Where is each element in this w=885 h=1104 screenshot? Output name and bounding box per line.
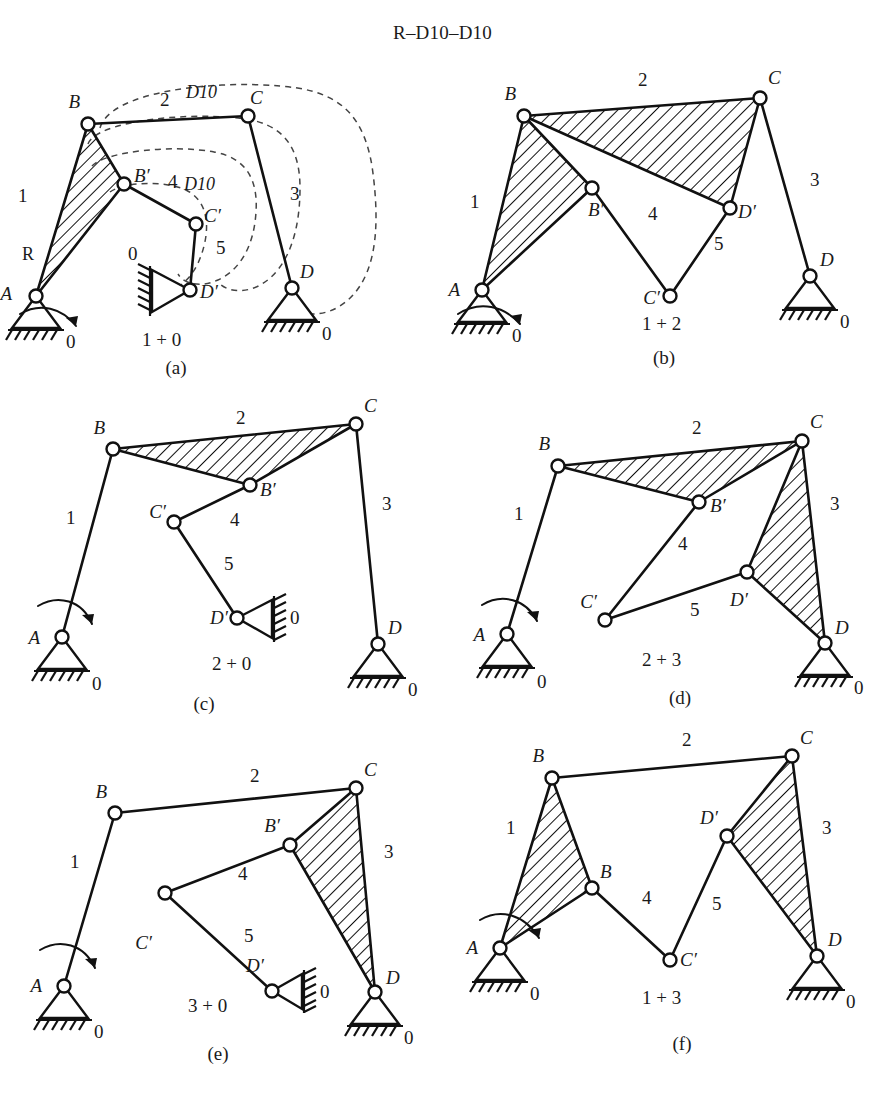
label-Cp: C′ <box>135 932 153 953</box>
label-C: C <box>800 727 813 748</box>
joint-Cp[interactable] <box>599 614 612 627</box>
label-B: B <box>95 781 107 802</box>
ground-hatch-Dp <box>304 968 316 1013</box>
joint-C[interactable] <box>350 782 363 795</box>
group-label: 1 + 3 <box>642 987 681 1008</box>
joint-Bp[interactable] <box>586 882 599 895</box>
ground-hatch-Dp <box>138 264 150 316</box>
figure-title: R–D10–D10 <box>0 22 885 44</box>
joint-Bp[interactable] <box>693 496 706 509</box>
label-C: C <box>364 759 377 780</box>
joint-D[interactable] <box>811 950 824 963</box>
link-number-3: 3 <box>382 493 392 514</box>
joint-C[interactable] <box>796 435 809 448</box>
joint-A[interactable] <box>58 980 71 993</box>
ground-hatch-A <box>470 982 528 992</box>
label-B: B <box>504 83 516 104</box>
panel-caption: (d) <box>669 687 691 709</box>
label-Cp: C′ <box>149 501 167 522</box>
panel-c: A B B′ C C′ D D′ 1 2 3 4 5 0 0 0 2 + 0 (… <box>0 398 440 728</box>
dashed-loop-inner <box>92 149 256 284</box>
link-number-3: 3 <box>830 493 840 514</box>
joint-B[interactable] <box>109 807 122 820</box>
label-Cp: C′ <box>204 205 222 226</box>
ground-hatch-D <box>345 1026 403 1036</box>
joint-A[interactable] <box>494 942 507 955</box>
link-4-BpCp <box>592 888 670 960</box>
link-number-2: 2 <box>638 69 648 90</box>
ground-hatch-D <box>795 677 853 687</box>
label-Bp: B′ <box>134 165 151 186</box>
label-A: A <box>464 937 478 958</box>
joint-Dp[interactable] <box>231 612 244 625</box>
joint-B[interactable] <box>546 772 559 785</box>
label-Cp: C′ <box>680 949 698 970</box>
ground-hatch-D <box>262 322 320 332</box>
link-2-BC <box>552 756 792 778</box>
joint-B[interactable] <box>107 443 120 456</box>
joint-B[interactable] <box>82 118 95 131</box>
joint-A[interactable] <box>56 631 69 644</box>
group-label: 1 + 2 <box>642 313 681 334</box>
joint-Cp[interactable] <box>159 887 172 900</box>
hatch-link-2 <box>113 424 356 485</box>
link-number-3: 3 <box>290 183 300 204</box>
joint-Cp[interactable] <box>190 218 203 231</box>
joint-Dp[interactable] <box>724 202 737 215</box>
joint-D[interactable] <box>804 270 817 283</box>
link-3-CD <box>248 116 292 288</box>
link-number-5: 5 <box>712 893 722 914</box>
hatch-link-1 <box>500 778 592 948</box>
joint-Bp[interactable] <box>118 178 131 191</box>
hatch-link-3 <box>727 756 817 956</box>
link-number-4: 4 <box>648 203 658 224</box>
joint-A[interactable] <box>501 628 514 641</box>
label-D: D <box>387 617 402 638</box>
joint-Dp[interactable] <box>184 284 197 297</box>
joint-Bp[interactable] <box>284 839 297 852</box>
joint-Cp[interactable] <box>664 954 677 967</box>
label-Dp: D′ <box>729 589 749 610</box>
label-D: D <box>385 967 400 988</box>
input-arrowhead <box>82 614 94 624</box>
joint-Cp[interactable] <box>168 516 181 529</box>
input-arrowhead <box>85 958 97 968</box>
joint-D[interactable] <box>372 638 385 651</box>
joint-C[interactable] <box>786 750 799 763</box>
link-2-BC <box>88 116 248 124</box>
joint-C[interactable] <box>350 418 363 431</box>
link-number-2: 2 <box>692 417 702 438</box>
joint-B[interactable] <box>552 460 565 473</box>
joint-Bp[interactable] <box>586 182 599 195</box>
joint-C[interactable] <box>242 110 255 123</box>
link-number-1: 1 <box>506 817 516 838</box>
ground-label-right: 0 <box>404 1027 414 1048</box>
joint-C[interactable] <box>754 92 767 105</box>
joint-Dp[interactable] <box>721 830 734 843</box>
joint-B[interactable] <box>518 110 531 123</box>
ground-hatch-D <box>787 990 845 1000</box>
label-Bp: B′ <box>588 199 605 220</box>
hatch-link-3 <box>747 441 825 643</box>
joint-A[interactable] <box>30 290 43 303</box>
joint-Dp[interactable] <box>741 566 754 579</box>
label-C: C <box>250 87 263 108</box>
ground-label-left: 0 <box>530 983 540 1004</box>
ground-label-mid: 0 <box>320 981 330 1002</box>
label-A: A <box>0 283 12 304</box>
label-Dp: D′ <box>737 201 757 222</box>
joint-D[interactable] <box>369 986 382 999</box>
panel-a: A B B′ C C′ D D′ 1 2 3 4 5 R D10 D10 0 0… <box>0 56 440 386</box>
joint-Cp[interactable] <box>664 290 677 303</box>
joint-D[interactable] <box>819 637 832 650</box>
hatch-link-3 <box>290 788 375 992</box>
joint-Bp[interactable] <box>244 479 257 492</box>
link-5-CpDp <box>190 224 196 290</box>
annotation-d10-mid: D10 <box>183 174 215 194</box>
label-C: C <box>768 67 781 88</box>
joint-D[interactable] <box>286 282 299 295</box>
joint-Dp[interactable] <box>266 985 279 998</box>
ground-label-left: 0 <box>537 671 547 692</box>
joint-A[interactable] <box>476 284 489 297</box>
annotation-input-R: R <box>22 244 34 264</box>
